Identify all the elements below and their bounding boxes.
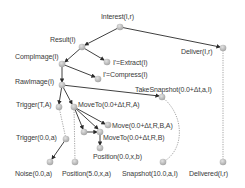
node-takesnapshot [159, 94, 166, 101]
label-trigger-ta: Trigger(T,A) [16, 101, 52, 109]
node-trigger-ta [56, 104, 63, 111]
node-move-rba [105, 122, 112, 129]
node-interest [117, 24, 124, 31]
node-result [79, 44, 86, 51]
node-compimage [59, 61, 66, 68]
label-moveto-rb: MoveTo(0.0+Δt,R,B) [103, 134, 164, 142]
edge-interest-result [85, 27, 120, 45]
edge-trigger-noise [52, 139, 66, 159]
label-trigger-a: Trigger(0.0,a) [16, 134, 57, 142]
label-position-b: Position(0.0,x,b) [93, 153, 142, 161]
node-position-a [72, 159, 79, 166]
label-position-a: Position(5.0,x,a) [62, 170, 111, 178]
node-noise [47, 159, 54, 166]
edge-trigger-ta-trigger-a [59, 107, 66, 139]
node-compress [95, 76, 102, 83]
label-snapshot: Snapshot(10.0,a,I) [122, 170, 178, 178]
label-moveto-ra: MoveTo(0.0+Δt,R,A) [78, 101, 139, 109]
edge-result-compimage [65, 47, 82, 62]
label-noise: Noise(0.0,a) [15, 170, 52, 178]
edge-compimage-compress [62, 64, 95, 77]
task-tree-diagram: Interest(I,r) Result(I) Deliver(I,r) Com… [0, 0, 245, 188]
node-snapshot [160, 159, 167, 166]
label-interest: Interest(I,r) [101, 13, 134, 21]
node-deliver [220, 45, 227, 52]
label-delivered: Delivered(I,r) [189, 170, 228, 178]
node-rawimage [59, 82, 66, 89]
node-extract [104, 59, 111, 66]
label-takesnapshot: TakeSnapshot(0.0+Δt,a,I) [135, 86, 212, 94]
edge-moveto-position [74, 107, 75, 162]
label-extract: I'=Extract(I) [113, 59, 147, 67]
label-result: Result(I) [50, 36, 76, 44]
label-compimage: CompImage(I) [15, 53, 59, 61]
edge-interest-deliver [120, 27, 220, 47]
node-aux [81, 129, 88, 136]
edge-result-extract [82, 47, 104, 60]
label-deliver: Deliver(I,r) [181, 48, 212, 56]
label-move-rba: Move(0.0+Δt,R,B,A) [112, 122, 173, 130]
label-compress: I'=Compress(I) [103, 71, 147, 79]
node-position-b [97, 145, 104, 152]
label-rawimage: RawImage(I) [15, 78, 54, 86]
edge-moveto-aux [74, 107, 83, 129]
node-delivered [220, 159, 227, 166]
nodes [47, 24, 227, 166]
node-trigger-a [63, 136, 70, 143]
node-moveto-ra [71, 104, 78, 111]
